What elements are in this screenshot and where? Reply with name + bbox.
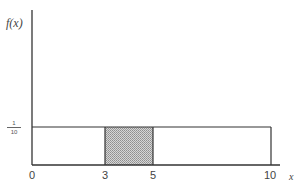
x-axis-label: x <box>289 172 293 182</box>
x-tick-5: 5 <box>150 170 156 181</box>
y-tick-one-tenth: 1 10 <box>7 120 21 135</box>
uniform-density-plot <box>0 0 299 190</box>
x-tick-10: 10 <box>264 170 276 181</box>
y-tick-numerator: 1 <box>7 120 21 128</box>
shaded-probability-region <box>105 127 153 165</box>
y-tick-denominator: 10 <box>7 128 21 135</box>
y-axis-label: f(x) <box>6 17 23 29</box>
x-tick-3: 3 <box>102 170 108 181</box>
x-tick-0: 0 <box>29 170 35 181</box>
